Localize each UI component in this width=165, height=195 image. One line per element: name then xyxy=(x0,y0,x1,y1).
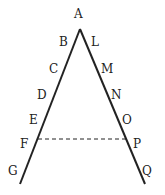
label-a: A xyxy=(73,7,83,21)
right-side-line xyxy=(80,29,145,184)
label-g: G xyxy=(8,164,18,178)
label-n: N xyxy=(111,88,122,102)
label-q: Q xyxy=(142,164,152,178)
triangle-diagram: A B C D E F G L M N O P Q xyxy=(0,0,165,195)
label-p: P xyxy=(133,137,141,151)
label-e: E xyxy=(29,113,38,127)
label-m: M xyxy=(101,62,113,76)
left-side-line xyxy=(20,29,80,184)
label-c: C xyxy=(49,62,58,76)
label-o: O xyxy=(122,113,132,127)
label-d: D xyxy=(37,88,47,102)
label-b: B xyxy=(59,35,68,49)
label-l: L xyxy=(91,35,99,49)
label-f: F xyxy=(20,137,28,151)
